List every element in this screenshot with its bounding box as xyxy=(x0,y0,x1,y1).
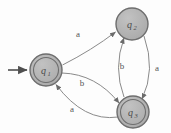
state-q1-label: q xyxy=(41,65,46,76)
edge-q1-q3 xyxy=(62,73,119,103)
state-q3-label: q xyxy=(128,107,133,118)
edge-q2-q3 xyxy=(142,36,150,99)
state-node-q3[interactable]: q 3 xyxy=(117,96,149,128)
edge-label-q1-q3: b xyxy=(80,78,85,88)
edge-label-q3-q1: a xyxy=(70,104,74,114)
state-node-q1[interactable]: q 1 xyxy=(30,54,62,86)
edge-q3-q1 xyxy=(56,85,118,118)
state-q3-outer-circle xyxy=(117,96,149,128)
edge-label-q2-q3: a xyxy=(155,63,159,73)
state-node-q2[interactable]: q 2 xyxy=(116,8,148,40)
state-q2-outer-circle xyxy=(116,8,148,40)
state-q1-subscript: 1 xyxy=(47,70,50,77)
fsm-diagram: q 1 q 2 q 3 a b a a b xyxy=(0,0,171,133)
state-q1-outer-circle xyxy=(30,54,62,86)
state-q2-label: q xyxy=(127,19,132,30)
diagram-canvas: q 1 q 2 q 3 a b a a b xyxy=(0,0,171,133)
edge-q1-q2 xyxy=(63,32,116,65)
edge-label-q1-q2: a xyxy=(76,29,80,39)
edge-label-q3-q2: b xyxy=(120,61,125,71)
